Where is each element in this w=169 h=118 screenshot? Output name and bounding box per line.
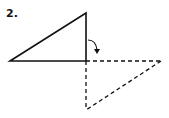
fold-diagram — [0, 0, 169, 118]
solid-triangle — [10, 13, 86, 61]
fold-arrow-icon — [88, 40, 100, 54]
dashed-triangle — [86, 61, 161, 110]
